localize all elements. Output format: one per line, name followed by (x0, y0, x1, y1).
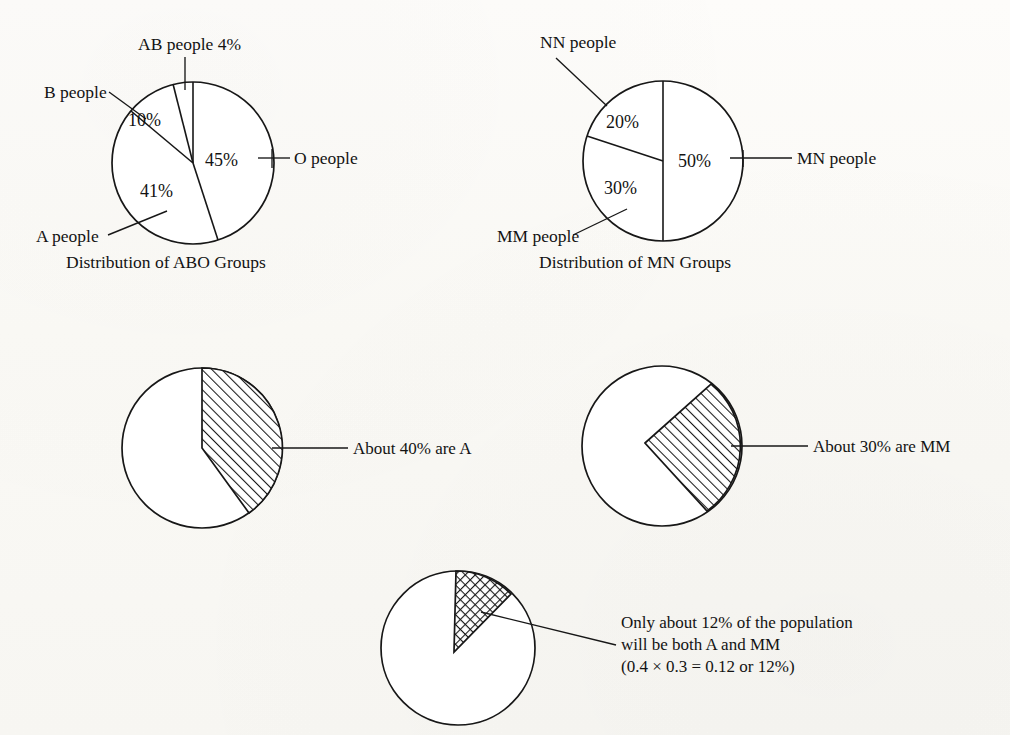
chart-abo-groups: AB people 4% B people 10% 45% O people 4… (36, 34, 358, 272)
chart-a-and-mm-share: Only about 12% of the population will be… (381, 571, 853, 725)
combined-callout-line-1: Only about 12% of the population (621, 613, 853, 632)
mn-percent-nn: 20% (606, 112, 639, 132)
chart-mn-groups: NN people 20% 50% MN people 30% MM peopl… (497, 32, 876, 272)
mn-label-mm: MM people (497, 226, 579, 246)
abo-label-b: B people (44, 82, 107, 102)
combined-callout-line-3: (0.4 × 0.3 = 0.12 or 12%) (621, 657, 795, 676)
mn-caption: Distribution of MN Groups (539, 252, 731, 272)
a-share-callout: About 40% are A (353, 439, 472, 458)
abo-percent-o: 45% (205, 150, 238, 170)
mn-leader-nn (556, 58, 607, 106)
chart-mm-share: About 30% are MM (582, 366, 950, 526)
abo-caption: Distribution of ABO Groups (66, 252, 266, 272)
chart-a-share: About 40% are A (122, 368, 472, 528)
mn-percent-mn: 50% (678, 151, 711, 171)
mm-share-callout: About 30% are MM (813, 437, 950, 456)
abo-percent-b: 10% (128, 110, 161, 130)
abo-percent-a: 41% (140, 181, 173, 201)
mn-percent-mm: 30% (604, 178, 637, 198)
blood-group-figure: AB people 4% B people 10% 45% O people 4… (0, 0, 1010, 735)
mn-label-mn: MN people (797, 148, 876, 168)
abo-label-a: A people (36, 226, 99, 246)
abo-label-o: O people (294, 148, 358, 168)
combined-callout-line-2: will be both A and MM (621, 635, 780, 654)
figure-root: AB people 4% B people 10% 45% O people 4… (0, 0, 1010, 735)
mn-label-nn: NN people (540, 32, 617, 52)
abo-label-ab: AB people 4% (138, 34, 241, 54)
